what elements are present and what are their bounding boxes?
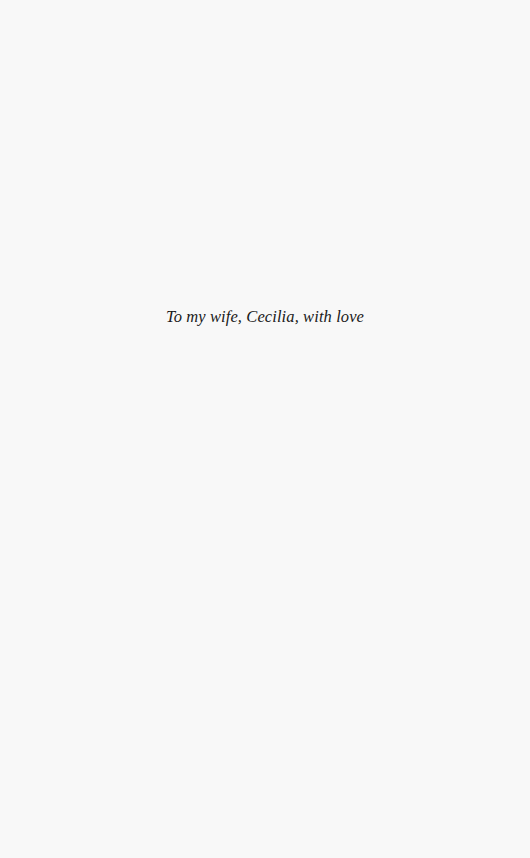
dedication: To my wife, Cecilia, with love [0,307,530,327]
book-page: To my wife, Cecilia, with love [0,0,530,858]
dedication-text: To my wife, Cecilia, with love [166,307,364,326]
